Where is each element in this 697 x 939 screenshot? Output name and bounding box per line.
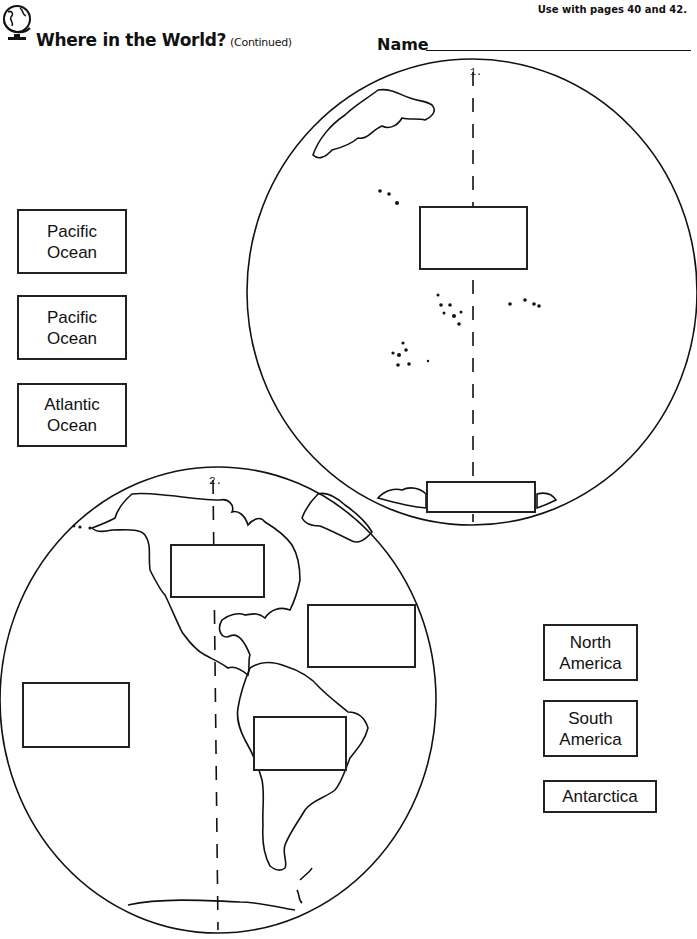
globe-1-answer-box-upper[interactable] (419, 206, 528, 270)
word-bank-left-0[interactable]: PacificOcean (17, 209, 127, 274)
word-bank-right-0[interactable]: NorthAmerica (543, 624, 638, 681)
globe-2-answer-box-west[interactable] (22, 682, 130, 748)
word-bank-left-2[interactable]: AtlanticOcean (17, 383, 127, 447)
svg-text:2.: 2. (209, 475, 222, 487)
word-line: Ocean (47, 242, 97, 263)
word-line: Antarctica (562, 786, 638, 807)
word-bank-right-2[interactable]: Antarctica (543, 780, 657, 813)
globe-1-answer-box-lower[interactable] (426, 481, 536, 513)
word-line: South (559, 708, 621, 729)
word-line: America (559, 729, 621, 750)
word-bank-left-1[interactable]: PacificOcean (17, 295, 127, 360)
globe-1 (247, 59, 697, 525)
word-line: Ocean (44, 415, 100, 436)
word-bank-right-1[interactable]: SouthAmerica (543, 700, 638, 757)
word-line: Pacific (47, 221, 97, 242)
word-line: Atlantic (44, 394, 100, 415)
globe-2-answer-box-south[interactable] (253, 716, 347, 771)
word-line: North (559, 632, 621, 653)
word-line: America (559, 653, 621, 674)
globe-2-answer-box-north[interactable] (170, 544, 265, 598)
svg-text:1.: 1. (470, 67, 482, 78)
globe-2-answer-box-east[interactable] (307, 604, 416, 668)
word-line: Pacific (47, 307, 97, 328)
word-line: Ocean (47, 328, 97, 349)
globe-2: 2. 1. (0, 67, 482, 933)
